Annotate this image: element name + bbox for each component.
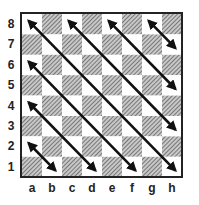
- square-b4: [42, 96, 62, 116]
- rank-label-5: 5: [5, 78, 17, 92]
- square-e3: [102, 116, 122, 136]
- file-label-a: a: [22, 181, 42, 195]
- square-f4: [122, 96, 142, 116]
- square-e7: [102, 34, 122, 54]
- rank-label-8: 8: [5, 17, 17, 31]
- square-e1: [102, 157, 122, 177]
- file-label-f: f: [122, 181, 142, 195]
- rank-label-4: 4: [5, 99, 17, 113]
- square-f6: [122, 55, 142, 75]
- square-a5: [22, 75, 42, 95]
- square-c3: [62, 116, 82, 136]
- rank-label-2: 2: [5, 139, 17, 153]
- square-g3: [142, 116, 162, 136]
- chessboard: [0, 0, 199, 205]
- square-e5: [102, 75, 122, 95]
- file-label-e: e: [102, 181, 122, 195]
- square-f2: [122, 136, 142, 156]
- square-h6: [162, 55, 182, 75]
- square-g5: [142, 75, 162, 95]
- file-label-d: d: [82, 181, 102, 195]
- rank-label-1: 1: [5, 160, 17, 174]
- square-f8: [122, 14, 142, 34]
- square-c1: [62, 157, 82, 177]
- rank-label-6: 6: [5, 58, 17, 72]
- file-label-b: b: [42, 181, 62, 195]
- square-c5: [62, 75, 82, 95]
- square-b6: [42, 55, 62, 75]
- square-d6: [82, 55, 102, 75]
- square-c7: [62, 34, 82, 54]
- file-label-h: h: [162, 181, 182, 195]
- square-b8: [42, 14, 62, 34]
- square-h2: [162, 136, 182, 156]
- chess-diagram: 87654321 abcdefgh: [0, 0, 199, 205]
- square-d4: [82, 96, 102, 116]
- square-a3: [22, 116, 42, 136]
- square-g7: [142, 34, 162, 54]
- square-h4: [162, 96, 182, 116]
- file-label-c: c: [62, 181, 82, 195]
- square-b2: [42, 136, 62, 156]
- square-a1: [22, 157, 42, 177]
- square-a7: [22, 34, 42, 54]
- rank-label-3: 3: [5, 119, 17, 133]
- square-g1: [142, 157, 162, 177]
- square-h8: [162, 14, 182, 34]
- square-d2: [82, 136, 102, 156]
- square-d8: [82, 14, 102, 34]
- rank-label-7: 7: [5, 37, 17, 51]
- file-label-g: g: [142, 181, 162, 195]
